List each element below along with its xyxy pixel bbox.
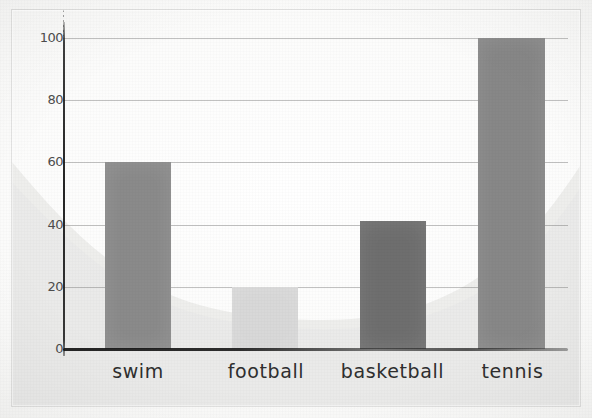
x-label-swim: swim — [88, 360, 188, 382]
plot-area: 100 80 60 40 20 0 swim football basketba… — [0, 0, 592, 418]
x-axis-line — [63, 348, 568, 351]
y-tick-label-20: 20 — [21, 279, 63, 294]
bar-swim — [105, 162, 171, 349]
bar-football — [232, 287, 298, 349]
y-tick-label-60: 60 — [21, 154, 63, 169]
y-tick-label-80: 80 — [21, 92, 63, 107]
chart-image: 100 80 60 40 20 0 swim football basketba… — [0, 0, 592, 418]
y-axis-line — [63, 22, 65, 356]
bar-basketball — [360, 221, 426, 349]
y-tick-label-40: 40 — [21, 217, 63, 232]
x-label-basketball: basketball — [325, 360, 460, 382]
x-label-football: football — [213, 360, 319, 382]
bar-tennis — [478, 38, 545, 349]
y-tick-label-0: 0 — [21, 341, 63, 356]
x-label-tennis: tennis — [460, 360, 565, 382]
y-tick-label-100: 100 — [21, 30, 63, 45]
